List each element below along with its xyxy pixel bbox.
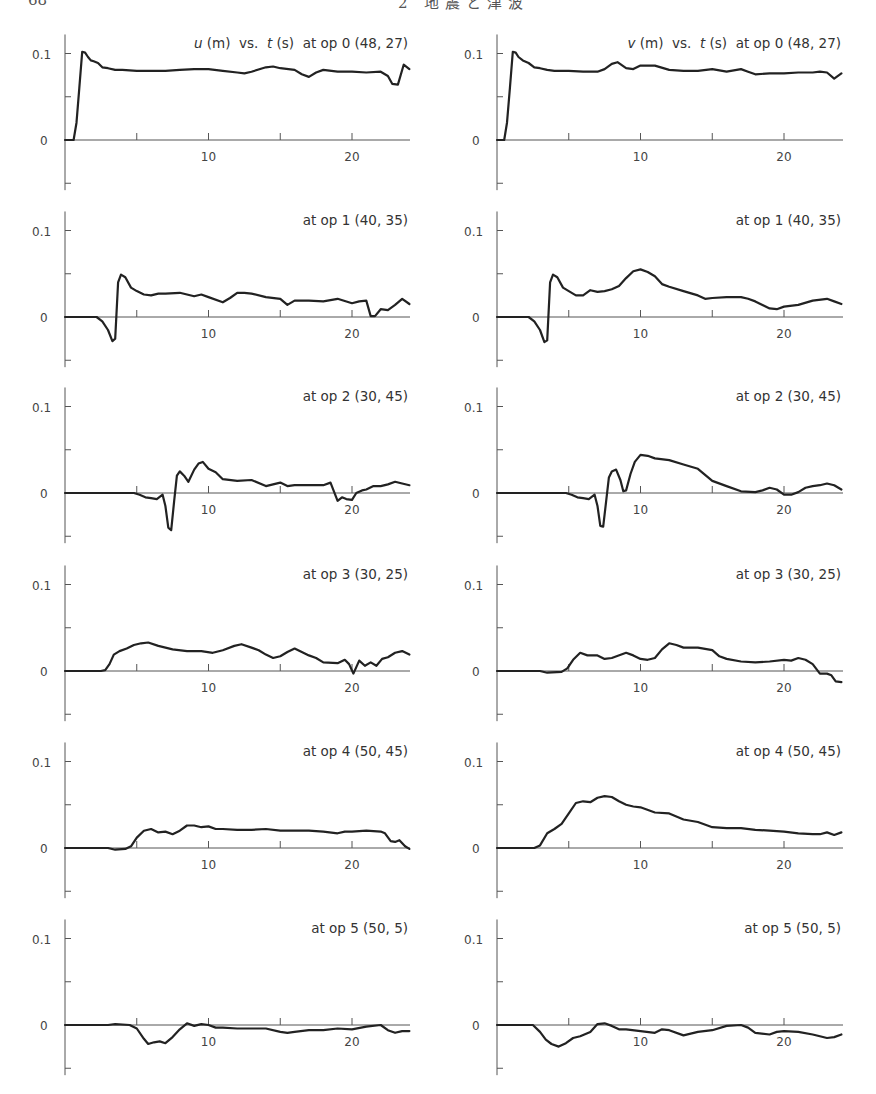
y-tick-label: 0.1 — [32, 579, 51, 593]
x-tick-label: 10 — [201, 858, 216, 872]
data-line — [65, 826, 409, 850]
chart-title: at op 3 (30, 25) — [736, 566, 841, 582]
x-tick-label: 20 — [344, 327, 359, 341]
y-tick-label: 0 — [40, 487, 48, 501]
chart-title: at op 2 (30, 45) — [736, 388, 841, 404]
x-tick-label: 20 — [344, 858, 359, 872]
chart-panel-u-op4: 00.11020at op 4 (50, 45) — [32, 742, 410, 898]
chart-title: at op 1 (40, 35) — [736, 212, 841, 228]
y-tick-label: 0 — [40, 311, 48, 325]
x-tick-label: 20 — [344, 1035, 359, 1049]
chart-title: at op 1 (40, 35) — [303, 212, 408, 228]
y-tick-label: 0 — [40, 665, 48, 679]
data-line — [497, 796, 841, 848]
y-tick-label: 0 — [472, 1019, 480, 1033]
chart-title: at op 5 (50, 5) — [311, 920, 408, 936]
x-tick-label: 10 — [633, 681, 648, 695]
chart-panel-u-op3: 00.11020at op 3 (30, 25) — [32, 565, 410, 721]
y-tick-label: 0.1 — [32, 48, 51, 62]
chart-panel-u-op2: 00.11020at op 2 (30, 45) — [32, 387, 410, 543]
y-tick-label: 0.1 — [32, 933, 51, 947]
y-tick-label: 0 — [472, 842, 480, 856]
chart-panel-v-op2: 00.11020at op 2 (30, 45) — [464, 387, 843, 543]
y-tick-label: 0.1 — [464, 48, 483, 62]
x-tick-label: 10 — [633, 150, 648, 164]
y-tick-label: 0 — [472, 311, 480, 325]
x-tick-label: 20 — [344, 150, 359, 164]
chart-title: at op 2 (30, 45) — [303, 388, 408, 404]
y-tick-label: 0.1 — [464, 225, 483, 239]
y-tick-label: 0.1 — [32, 756, 51, 770]
x-tick-label: 20 — [344, 681, 359, 695]
y-tick-label: 0 — [40, 1019, 48, 1033]
chart-panel-u-op1: 00.11020at op 1 (40, 35) — [32, 211, 410, 367]
chart-panel-v-op3: 00.11020at op 3 (30, 25) — [464, 565, 843, 721]
y-tick-label: 0 — [472, 487, 480, 501]
x-tick-label: 10 — [201, 681, 216, 695]
x-tick-label: 10 — [633, 327, 648, 341]
x-tick-label: 10 — [633, 503, 648, 517]
data-line — [497, 643, 841, 682]
chart-grid: 00.11020u (m) vs. t (s) at op 0 (48, 27)… — [0, 0, 876, 1094]
y-tick-label: 0 — [472, 665, 480, 679]
x-tick-label: 20 — [776, 858, 791, 872]
chart-title: at op 5 (50, 5) — [744, 920, 841, 936]
chart-panel-u-op5: 00.11020at op 5 (50, 5) — [32, 919, 410, 1075]
x-tick-label: 10 — [201, 1035, 216, 1049]
x-tick-label: 20 — [776, 150, 791, 164]
x-tick-label: 10 — [633, 1035, 648, 1049]
y-tick-label: 0.1 — [32, 401, 51, 415]
x-tick-label: 10 — [201, 150, 216, 164]
chart-panel-v-op1: 00.11020at op 1 (40, 35) — [464, 211, 843, 367]
data-line — [65, 643, 409, 674]
x-tick-label: 20 — [776, 327, 791, 341]
chart-title: u (m) vs. t (s) at op 0 (48, 27) — [194, 35, 408, 51]
x-tick-label: 20 — [344, 503, 359, 517]
data-line — [65, 462, 409, 530]
chart-title: at op 4 (50, 45) — [303, 743, 408, 759]
x-tick-label: 10 — [201, 327, 216, 341]
y-tick-label: 0.1 — [464, 933, 483, 947]
data-line — [65, 52, 409, 140]
y-tick-label: 0 — [472, 134, 480, 148]
chart-panel-v-op5: 00.11020at op 5 (50, 5) — [464, 919, 843, 1075]
data-line — [497, 52, 841, 140]
chart-panel-v-op0: 00.11020v (m) vs. t (s) at op 0 (48, 27) — [464, 34, 843, 190]
y-tick-label: 0 — [40, 134, 48, 148]
chart-panel-u-op0: 00.11020u (m) vs. t (s) at op 0 (48, 27) — [32, 34, 410, 190]
chart-title: at op 3 (30, 25) — [303, 566, 408, 582]
chart-panel-v-op4: 00.11020at op 4 (50, 45) — [464, 742, 843, 898]
x-tick-label: 20 — [776, 681, 791, 695]
y-tick-label: 0.1 — [32, 225, 51, 239]
x-tick-label: 20 — [776, 503, 791, 517]
y-tick-label: 0.1 — [464, 579, 483, 593]
chart-title: v (m) vs. t (s) at op 0 (48, 27) — [627, 35, 841, 51]
x-tick-label: 10 — [633, 858, 648, 872]
chart-title: at op 4 (50, 45) — [736, 743, 841, 759]
x-tick-label: 20 — [776, 1035, 791, 1049]
y-tick-label: 0 — [40, 842, 48, 856]
y-tick-label: 0.1 — [464, 401, 483, 415]
x-tick-label: 10 — [201, 503, 216, 517]
y-tick-label: 0.1 — [464, 756, 483, 770]
